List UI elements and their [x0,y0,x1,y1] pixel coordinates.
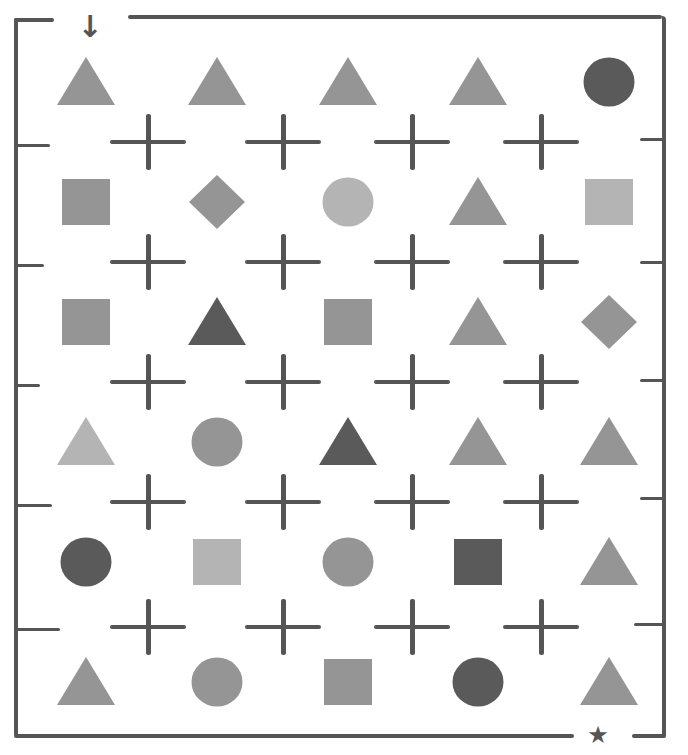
start-arrow-icon: ↓ [76,12,104,42]
square-icon [324,659,372,705]
triangle-icon [188,297,246,347]
border-right [662,16,666,738]
wall-cross-vertical [410,114,415,170]
wall-cross-vertical [410,234,415,290]
border-bottom-left-segment [14,734,574,738]
wall-cross-vertical [146,354,151,410]
triangle-icon [449,417,507,467]
right-stub [640,138,664,141]
left-stub [16,144,50,147]
left-stub [16,628,60,631]
square-icon [62,299,110,345]
triangle-icon [449,57,507,107]
triangle-icon [449,297,507,347]
left-stub [16,504,52,507]
left-stub [16,264,44,267]
wall-cross-vertical [410,474,415,530]
circle-icon [322,177,374,227]
wall-cross-vertical [539,599,544,655]
border-top-right-segment [128,15,662,19]
wall-cross-vertical [146,599,151,655]
triangle-icon [580,657,638,707]
right-stub [634,623,664,626]
diamond-icon [581,295,637,349]
triangle-icon [319,57,377,107]
triangle-icon [580,417,638,467]
circle-icon [583,57,635,107]
circle-icon [60,537,112,587]
wall-cross-vertical [146,114,151,170]
square-icon [193,539,241,585]
square-icon [324,299,372,345]
end-star-icon: ★ [585,723,611,747]
border-top-left-segment [14,18,54,22]
right-stub [640,497,664,500]
wall-cross-vertical [539,114,544,170]
right-stub [640,379,664,382]
wall-cross-vertical [146,234,151,290]
triangle-icon [57,57,115,107]
wall-cross-vertical [281,474,286,530]
circle-icon [191,417,243,467]
wall-cross-vertical [281,599,286,655]
circle-icon [452,657,504,707]
wall-cross-vertical [281,234,286,290]
square-icon [585,179,633,225]
wall-cross-vertical [539,474,544,530]
square-icon [454,539,502,585]
wall-cross-vertical [281,114,286,170]
circle-icon [322,537,374,587]
border-bottom-right-segment [632,734,666,738]
wall-cross-vertical [410,354,415,410]
shape-maze-board: ↓ ★ [0,0,688,755]
wall-cross-vertical [410,599,415,655]
triangle-icon [57,417,115,467]
wall-cross-vertical [146,474,151,530]
diamond-icon [189,175,245,229]
left-stub [16,384,40,387]
right-stub [640,261,664,264]
wall-cross-vertical [539,354,544,410]
wall-cross-vertical [539,234,544,290]
circle-icon [191,657,243,707]
square-icon [62,179,110,225]
triangle-icon [580,537,638,587]
wall-cross-vertical [281,354,286,410]
triangle-icon [57,657,115,707]
triangle-icon [319,417,377,467]
triangle-icon [188,57,246,107]
triangle-icon [449,177,507,227]
